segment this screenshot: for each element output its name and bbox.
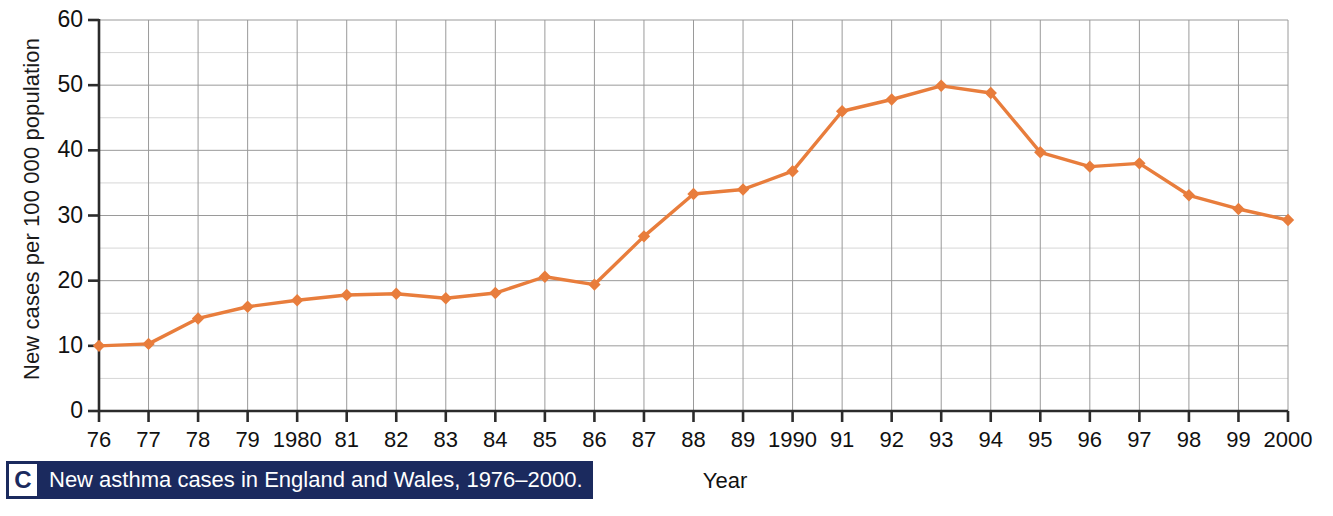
x-tick-label: 78 [186,429,210,451]
y-tick-label: 60 [37,8,83,31]
figure-caption: C New asthma cases in England and Wales,… [6,461,593,499]
y-tick-label: 30 [37,204,83,227]
x-tick-label: 98 [1177,429,1201,451]
caption-letter: C [14,468,31,492]
x-tick-label: 87 [632,429,656,451]
x-tick-label: 86 [582,429,606,451]
x-tick-label: 93 [929,429,953,451]
x-tick-label: 99 [1226,429,1250,451]
x-tick-label: 1980 [273,429,322,451]
x-tick-label: 79 [235,429,259,451]
x-tick-label: 94 [979,429,1003,451]
y-tick-label: 40 [37,138,83,161]
x-tick-label: 92 [879,429,903,451]
caption-text: New asthma cases in England and Wales, 1… [37,461,583,499]
caption-letter-box: C [9,464,37,496]
y-tick-label: 50 [37,73,83,96]
x-tick-label: 85 [533,429,557,451]
x-tick-label: 96 [1078,429,1102,451]
x-tick-label: 91 [830,429,854,451]
x-tick-label: 95 [1028,429,1052,451]
x-tick-label: 89 [731,429,755,451]
y-tick-label: 10 [37,334,83,357]
x-tick-label: 2000 [1264,429,1313,451]
x-tick-label: 77 [136,429,160,451]
x-tick-label: 84 [483,429,507,451]
asthma-line-chart-figure: New cases per 100 000 population 0102030… [0,0,1333,516]
x-axis-title: Year [645,468,805,494]
x-tick-label: 81 [334,429,358,451]
x-tick-label: 88 [681,429,705,451]
x-tick-label: 82 [384,429,408,451]
y-axis-tick-marks [88,20,99,411]
x-axis-tick-marks [99,411,1288,422]
x-tick-label: 83 [434,429,458,451]
y-tick-label: 20 [37,269,83,292]
y-tick-label: 0 [37,399,83,422]
x-tick-label: 76 [87,429,111,451]
x-tick-label: 97 [1127,429,1151,451]
x-tick-label: 1990 [768,429,817,451]
